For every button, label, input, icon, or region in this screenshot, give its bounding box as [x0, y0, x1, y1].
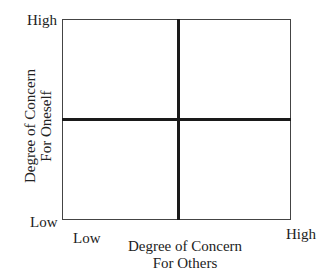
x-axis-high-label: High — [286, 226, 316, 242]
y-axis-title-line2: For Oneself — [38, 26, 54, 226]
y-axis-title-line1: Degree of Concern — [22, 26, 38, 226]
x-axis-low-label: Low — [73, 230, 101, 246]
horizontal-divider — [62, 118, 291, 121]
y-axis-title: Degree of Concern For Oneself — [22, 26, 54, 226]
x-axis-title: Degree of Concern For Others — [100, 238, 270, 272]
x-axis-title-line1: Degree of Concern — [100, 238, 270, 255]
x-axis-title-line2: For Others — [100, 255, 270, 272]
